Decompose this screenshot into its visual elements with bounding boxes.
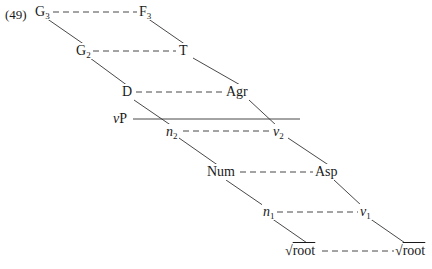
radical-icon: √ xyxy=(395,243,403,258)
node-v1: v1 xyxy=(359,204,372,220)
edge-asp-v1 xyxy=(334,180,362,206)
edge-n2-num xyxy=(179,138,219,166)
edge-v2-asp xyxy=(288,138,330,166)
node-root-right: √root xyxy=(394,243,426,259)
node-d: D xyxy=(121,84,133,100)
node-g3: G3 xyxy=(34,4,51,20)
node-agr: Agr xyxy=(225,84,249,100)
edge-num-n1 xyxy=(226,180,264,206)
node-v2: v2 xyxy=(272,124,285,140)
edge-n1-root xyxy=(271,218,310,245)
node-g2: G2 xyxy=(75,43,92,59)
node-root-left: √root xyxy=(284,243,316,259)
node-asp: Asp xyxy=(314,164,339,180)
edge-f3-t xyxy=(147,18,186,45)
node-t: T xyxy=(178,43,189,59)
edge-d-n2 xyxy=(134,100,172,126)
edge-t-agr xyxy=(193,58,242,86)
example-number: (49) xyxy=(5,7,27,23)
node-f3: F3 xyxy=(138,4,152,20)
edge-agr-v2 xyxy=(249,100,277,126)
node-n1: n1 xyxy=(262,204,276,220)
node-num: Num xyxy=(206,164,236,180)
node-n2: n2 xyxy=(165,124,179,140)
radical-icon: √ xyxy=(285,243,293,258)
node-vp: vP xyxy=(112,111,128,127)
edge-g3-g2 xyxy=(46,18,85,45)
diagram-lines xyxy=(0,0,432,269)
edge-g2-d xyxy=(90,58,128,86)
edge-v1-root xyxy=(369,218,408,245)
